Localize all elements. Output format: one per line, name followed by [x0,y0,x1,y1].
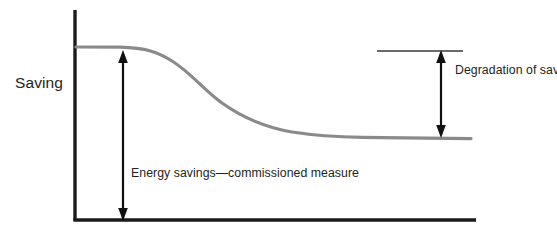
savings-degradation-figure: Saving Energy savings—commissioned measu… [0,0,557,241]
arrowhead-down [436,125,446,138]
figure-canvas [0,0,557,241]
degradation-callout-label: Degradation of savings over time [455,63,555,79]
energy-savings-arrow [118,50,128,221]
degradation-arrow [436,50,446,138]
savings-decay-curve [76,47,471,139]
energy-savings-callout-label: Energy savings—commissioned measure [131,166,359,182]
y-axis-label: Saving [15,73,63,93]
arrowhead-up [118,50,128,63]
arrowhead-up [436,50,446,63]
